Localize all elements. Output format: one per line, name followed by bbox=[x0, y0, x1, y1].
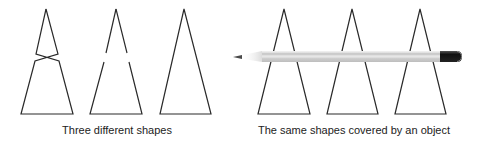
crossed-shape bbox=[21, 9, 73, 114]
left-panel bbox=[21, 9, 211, 114]
caption-left: Three different shapes bbox=[62, 124, 172, 136]
pencil-cone bbox=[240, 51, 262, 62]
occlusion-diagram bbox=[0, 0, 480, 141]
pencil-body bbox=[262, 51, 441, 62]
broken-triangle bbox=[90, 9, 142, 114]
pencil-lead bbox=[233, 55, 242, 59]
complete-triangle bbox=[160, 9, 211, 114]
caption-right: The same shapes covered by an object bbox=[258, 124, 450, 136]
pencil-eraser bbox=[440, 51, 462, 62]
pencil-icon bbox=[233, 51, 462, 62]
